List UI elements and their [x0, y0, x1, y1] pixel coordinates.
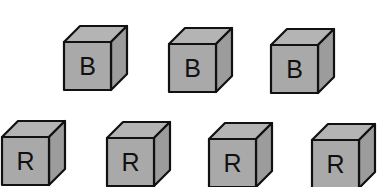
cube-b: B [64, 26, 127, 90]
top-row: BBB [64, 26, 334, 93]
bottom-row: RRRR [2, 121, 375, 187]
cube-label: B [184, 54, 201, 82]
cube-label: R [121, 148, 139, 176]
cube-r: R [2, 121, 65, 185]
cube-diagram: BBBRRRR [0, 0, 383, 187]
cube-r: R [209, 123, 272, 187]
cube-b: B [271, 29, 334, 93]
cube-label: B [286, 55, 303, 83]
cube-label: R [326, 150, 344, 178]
cube-label: R [16, 147, 34, 175]
cube-r: R [107, 122, 170, 186]
cube-r: R [312, 124, 375, 187]
cube-label: R [223, 149, 241, 177]
cube-b: B [169, 28, 232, 92]
cube-label: B [79, 52, 96, 80]
